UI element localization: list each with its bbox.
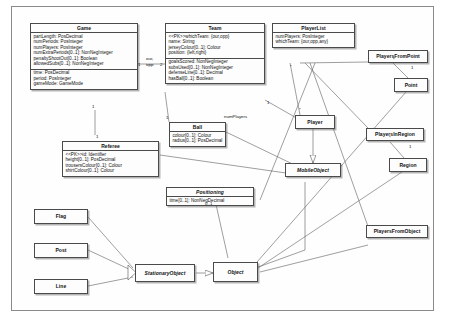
class-game[interactable]: Game partLength: PosDecimal numPeriods: … (30, 23, 138, 90)
edge-label-our: our, (146, 56, 153, 61)
class-referee[interactable]: Referee <<PK>>id: Identifier height[0..1… (62, 141, 159, 177)
class-object[interactable]: Object (213, 262, 258, 282)
class-name-playersfromobject: PlayersFromObject (367, 229, 427, 234)
attributes-team: <<PK>>whichTeam: {our,opp} name: String … (166, 33, 264, 58)
class-name-ball: Ball (170, 123, 225, 131)
attribute: gameMode: GameMode (34, 82, 136, 87)
class-playersfromobject[interactable]: PlayersFromObject (366, 225, 428, 238)
class-name-point: Point (395, 83, 427, 88)
class-name-mobileobject: MobileObject (286, 168, 340, 173)
class-flag[interactable]: Flag (34, 209, 88, 224)
class-name-region: Region (390, 163, 426, 168)
attribute: position: {left,right} (169, 51, 263, 56)
attribute: allowedSubs[0..1]: NonNegInteger (34, 62, 136, 67)
multiplicity-referee: 1 (96, 134, 98, 139)
class-line[interactable]: Line (34, 279, 88, 294)
attribute: radius[0..1]: PosDecimal (173, 139, 224, 144)
class-player[interactable]: Player (295, 115, 335, 129)
attributes-game: partLength: PosDecimal numPeriods: PosIn… (31, 33, 137, 69)
class-point[interactable]: Point (394, 78, 428, 92)
attribute: hasBall[0..1]: Boolean (169, 76, 263, 81)
class-name-player: Player (296, 120, 334, 125)
multiplicity-playerlist: * (290, 64, 292, 69)
multiplicity-team-player: 1 (267, 100, 269, 105)
class-name-team: Team (166, 24, 264, 32)
class-name-playersinregion: PlayersInRegion (367, 132, 423, 137)
class-mobileobject[interactable]: MobileObject (285, 163, 341, 177)
class-name-positioning: Positioning (167, 188, 253, 196)
multiplicity-region: 1 (409, 144, 411, 149)
class-ball[interactable]: Ball colour[0..1]: Colour radius[0..1]: … (169, 122, 226, 147)
class-name-line: Line (35, 284, 87, 289)
attributes-ball: colour[0..1]: Colour radius[0..1]: PosDe… (170, 132, 225, 146)
multiplicity-playersfrompoint: * (393, 57, 395, 62)
attribute: whichTeam: {our,opp,any} (276, 40, 353, 45)
state-game: time: PosDecimal period: PosInteger game… (31, 70, 137, 89)
multiplicity-playersinregion: * (389, 135, 391, 140)
attributes-referee: <<PK>>id: Identifier height[0..1]: PosDe… (63, 151, 158, 176)
class-name-object: Object (214, 270, 257, 275)
class-stationaryobject[interactable]: StationaryObject (135, 264, 195, 282)
class-team[interactable]: Team <<PK>>whichTeam: {our,opp} name: St… (165, 23, 265, 84)
class-post[interactable]: Post (34, 243, 88, 258)
state-team: goalsScored: NonNegInteger subsUsed[0..1… (166, 59, 264, 84)
class-playersfrompoint[interactable]: PlayersFromPoint (368, 50, 428, 63)
multiplicity-positioning: 0..1 (205, 201, 212, 206)
multiplicity-game-referee: 1 (92, 104, 94, 109)
multiplicity-game-team-right: 2 (160, 62, 162, 67)
class-name-game: Game (31, 24, 137, 32)
multiplicity-player: * (299, 107, 301, 112)
class-name-playersfrompoint: PlayersFromPoint (369, 54, 427, 59)
multiplicity-game-team-left: 1 (138, 62, 140, 67)
edge-label-numplayers: numPlayers (224, 114, 247, 119)
class-name-playerlist: PlayerList (273, 24, 354, 32)
uml-class-diagram: Game partLength: PosDecimal numPeriods: … (0, 0, 450, 329)
attributes-playerlist: numPlayers: PosInteger whichTeam: {our,o… (273, 33, 354, 47)
class-name-flag: Flag (35, 214, 87, 219)
multiplicity-point: 1 (411, 65, 413, 70)
class-name-stationaryobject: StationaryObject (136, 271, 194, 276)
edge-label-opp: opp (146, 62, 153, 67)
class-playersinregion[interactable]: PlayersInRegion (366, 128, 424, 141)
class-playerlist[interactable]: PlayerList numPlayers: PosInteger whichT… (272, 23, 355, 48)
class-name-post: Post (35, 248, 87, 253)
class-name-referee: Referee (63, 142, 158, 150)
class-region[interactable]: Region (389, 158, 427, 172)
multiplicity-team-ball: 1 (166, 115, 168, 120)
attribute: shirtColour[0..1]: Colour (66, 169, 157, 174)
